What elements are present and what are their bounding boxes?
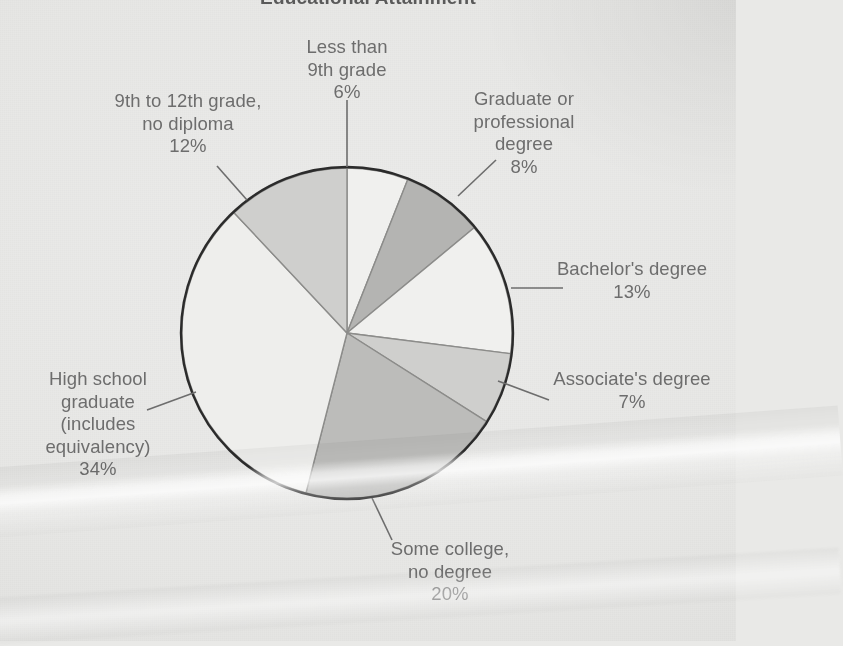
leader-line-9th-to-12th <box>217 166 247 200</box>
slice-label-bachelors: Bachelor's degree 13% <box>528 258 736 303</box>
slice-label-9th-to-12th: 9th to 12th grade, no diploma 12% <box>82 90 294 158</box>
slice-label-graduate-professional: Graduate or professional degree 8% <box>440 88 608 178</box>
slice-label-less-than-9th: Less than 9th grade 6% <box>277 36 417 104</box>
slice-label-associates: Associate's degree 7% <box>528 368 736 413</box>
